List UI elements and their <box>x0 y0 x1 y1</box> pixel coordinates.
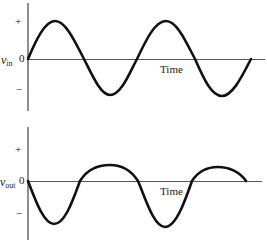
vin-minus-tick: − <box>16 84 22 95</box>
vin-zero-tick: 0 <box>19 53 25 64</box>
vout-zero-tick: 0 <box>19 175 25 186</box>
vout-waveform <box>28 165 246 227</box>
waveform-diagram <box>0 0 267 247</box>
vout-minus-tick: − <box>16 208 22 219</box>
vin-waveform <box>28 21 251 96</box>
vout-plus-tick: + <box>15 144 21 155</box>
vout-time-label: Time <box>160 186 183 197</box>
vout-subscript: out <box>5 181 15 190</box>
vin-axis-label: vin <box>1 54 13 68</box>
vin-plus-tick: + <box>15 16 21 27</box>
vin-subscript: in <box>6 59 12 68</box>
vin-time-label: Time <box>160 64 183 75</box>
vout-axis-label: vout <box>0 176 16 190</box>
